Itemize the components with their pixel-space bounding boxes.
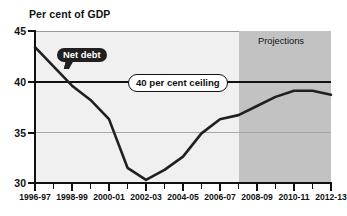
x-tick-mark-2010-11 <box>293 184 295 191</box>
x-tick-mark-2006-07 <box>219 184 221 191</box>
x-tick-mark-2000-01 <box>108 184 110 191</box>
y-tick-label-30: 30 <box>4 177 26 189</box>
y-tick-label-40: 40 <box>4 76 26 88</box>
chart-axis-title: Per cent of GDP <box>29 8 110 20</box>
x-tick-mark-2007-08 <box>238 184 240 189</box>
x-tick-mark-2008-09 <box>256 184 258 191</box>
y-axis-line <box>34 30 36 184</box>
x-tick-mark-2009-10 <box>275 184 277 189</box>
x-tick-label-2004-05: 2004-05 <box>167 192 199 202</box>
x-tick-mark-1997-98 <box>53 184 55 189</box>
x-tick-label-2012-13: 2012-13 <box>315 192 347 202</box>
projections-label: Projections <box>258 36 304 46</box>
y-tick-mark-40 <box>28 81 35 83</box>
net-debt-callout: Net debt <box>57 48 107 62</box>
x-tick-mark-1996-97 <box>34 184 36 191</box>
x-tick-mark-2004-05 <box>182 184 184 191</box>
x-tick-label-2008-09: 2008-09 <box>241 192 273 202</box>
y-tick-label-35: 35 <box>4 127 26 139</box>
net-debt-callout-label: Net debt <box>63 49 101 60</box>
y-tick-mark-35 <box>28 132 35 134</box>
x-tick-label-2010-11: 2010-11 <box>278 192 309 202</box>
x-tick-label-2006-07: 2006-07 <box>204 192 236 202</box>
x-tick-label-2002-03: 2002-03 <box>130 192 162 202</box>
x-tick-label-1998-99: 1998-99 <box>56 192 88 202</box>
x-tick-mark-2011-12 <box>312 184 314 189</box>
net-debt-polyline <box>35 47 331 180</box>
x-tick-mark-1999-00 <box>90 184 92 189</box>
y-tick-label-45: 45 <box>4 25 26 37</box>
x-tick-mark-2002-03 <box>145 184 147 191</box>
x-tick-mark-2005-06 <box>201 184 203 189</box>
x-tick-mark-2001-02 <box>127 184 129 189</box>
x-tick-label-2000-01: 2000-01 <box>93 192 125 202</box>
x-tick-mark-2003-04 <box>164 184 166 189</box>
x-tick-label-1996-97: 1996-97 <box>19 192 51 202</box>
y-tick-mark-45 <box>28 30 35 32</box>
ceiling-callout-label: 40 per cent ceiling <box>136 77 220 88</box>
x-tick-mark-1998-99 <box>71 184 73 191</box>
ceiling-callout: 40 per cent ceiling <box>128 74 228 92</box>
x-tick-mark-2012-13 <box>330 184 332 191</box>
